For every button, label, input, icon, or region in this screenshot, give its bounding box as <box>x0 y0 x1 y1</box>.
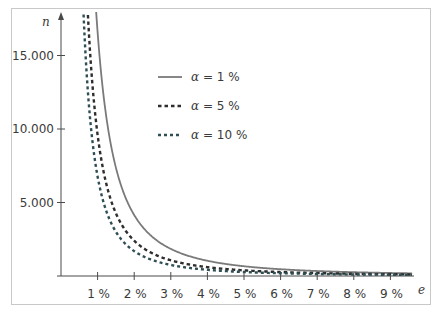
y-ticks: 5.00010.00015.000 <box>12 49 65 210</box>
legend-label: α = 5 % <box>191 99 240 113</box>
x-tick-label: 7 % <box>307 287 330 301</box>
legend: α = 1 %α = 5 %α = 10 % <box>158 70 247 142</box>
series-curves <box>83 8 412 274</box>
x-axis-label: e <box>418 283 425 297</box>
y-axis-arrow-icon <box>58 12 64 20</box>
x-tick-label: 9 % <box>380 287 403 301</box>
x-tick-label: 5 % <box>234 287 257 301</box>
series-line-2 <box>88 8 412 274</box>
y-axis <box>58 12 64 276</box>
legend-label: α = 10 % <box>191 128 247 142</box>
x-tick-label: 8 % <box>343 287 366 301</box>
line-chart: n e 5.00010.00015.000 1 %2 %3 %4 %5 %6 %… <box>0 0 440 317</box>
x-tick-label: 1 % <box>87 287 110 301</box>
x-tick-label: 4 % <box>197 287 220 301</box>
y-tick-label: 5.000 <box>20 196 54 210</box>
y-tick-label: 10.000 <box>12 122 54 136</box>
series-line-3 <box>83 8 412 274</box>
x-tick-label: 6 % <box>270 287 293 301</box>
x-tick-label: 3 % <box>160 287 183 301</box>
y-axis-label: n <box>42 15 50 29</box>
y-tick-label: 15.000 <box>12 49 54 63</box>
legend-label: α = 1 % <box>191 70 240 84</box>
series-line-1 <box>96 8 412 273</box>
x-tick-label: 2 % <box>124 287 147 301</box>
